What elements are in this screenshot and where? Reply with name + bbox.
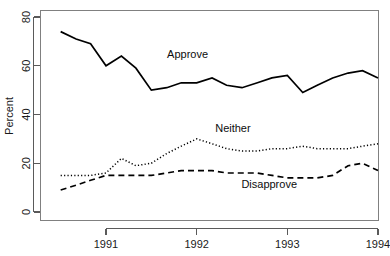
y-tick-label: 40 <box>20 108 32 120</box>
line-chart: 020406080 Percent 1991199219931994 Appro… <box>0 0 390 256</box>
y-axis-title: Percent <box>3 97 15 135</box>
series-annotation-disapprove: Disapprove <box>241 178 297 190</box>
y-tick-label: 20 <box>20 157 32 169</box>
y-tick-label: 80 <box>20 11 32 23</box>
chart-background <box>0 0 390 256</box>
chart-container: 020406080 Percent 1991199219931994 Appro… <box>0 0 390 256</box>
series-annotation-approve: Approve <box>167 48 208 60</box>
x-tick-label: 1992 <box>184 238 208 250</box>
x-tick-label: 1991 <box>94 238 118 250</box>
y-tick-label: 60 <box>20 60 32 72</box>
series-annotation-neither: Neither <box>215 122 251 134</box>
y-tick-label: 0 <box>20 209 32 215</box>
x-tick-label: 1994 <box>366 238 390 250</box>
x-tick-label: 1993 <box>275 238 299 250</box>
